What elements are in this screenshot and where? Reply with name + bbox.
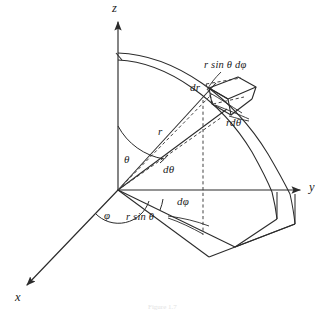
leader-lines-group [168,72,249,234]
x-axis-label: x [15,291,21,304]
radius-ray-lower [118,109,227,190]
axes-group [27,22,300,285]
outer-sphere-arc-lower [290,194,295,224]
leader-r-sin-theta [168,218,203,234]
d-phi-angle-arc [160,199,163,210]
spherical-shell-group [116,53,295,224]
phi-label: φ [104,210,110,221]
wedge-base-group [118,190,295,257]
shell-top-tick [116,53,122,60]
figure-caption: Figure 1.7 [148,303,177,311]
d-phi-label: dφ [177,196,189,207]
z-axis-label: z [112,2,117,15]
r-d-theta-label: rdθ [226,117,241,128]
outer-sphere-arc-front [118,53,290,194]
dashed-radius-ray-a [118,94,212,190]
d-theta-label: dθ [163,164,174,175]
dr-label: dr [190,82,200,93]
wedge-edge-near [118,190,209,257]
spherical-coordinates-diagram [0,0,336,319]
radius-label: r [158,126,162,137]
dashed-radius-ray-b [118,117,222,190]
theta-label: θ [124,154,130,165]
y-axis-label: y [309,181,315,194]
inner-sphere-arc-lower [272,192,277,219]
volume-element-top-face [209,77,256,99]
figure-root: z y x r θ φ dθ dφ dr rdθ r sin θ dφ r si… [0,0,336,319]
r-sin-theta-label: r sin θ [126,212,154,223]
x-axis-line [27,190,118,285]
leader-r-sin-theta-d-phi [207,72,221,90]
r-sin-theta-d-phi-label: r sin θ dφ [204,60,246,71]
